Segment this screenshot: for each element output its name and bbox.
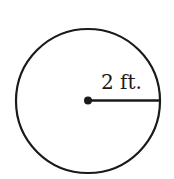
- radius-label: 2 ft.: [101, 70, 142, 94]
- center-point: [84, 97, 92, 105]
- circle-diagram: 2 ft.: [0, 0, 174, 179]
